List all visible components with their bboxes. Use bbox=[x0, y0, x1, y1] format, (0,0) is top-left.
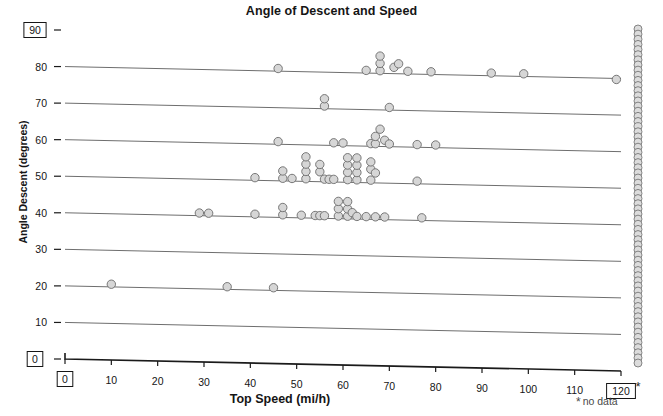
data-point bbox=[274, 137, 282, 145]
data-point bbox=[371, 213, 379, 221]
y-axis-label: Angle Descent (degrees) bbox=[17, 102, 29, 262]
data-point bbox=[302, 153, 310, 161]
data-point bbox=[367, 158, 375, 166]
gridline-y-40 bbox=[65, 213, 621, 225]
data-point bbox=[279, 167, 287, 175]
x-tick-label-0: 0 bbox=[62, 373, 68, 385]
gridline-y-30 bbox=[65, 249, 621, 261]
data-point bbox=[612, 75, 620, 83]
data-point bbox=[223, 283, 231, 291]
y-tick-label-10: 10 bbox=[35, 316, 47, 328]
data-point bbox=[353, 212, 361, 220]
y-tick-label-0: 0 bbox=[32, 353, 38, 365]
data-point bbox=[279, 203, 287, 211]
data-point bbox=[413, 177, 421, 185]
data-point bbox=[107, 280, 115, 288]
data-point bbox=[362, 212, 370, 220]
chart-figure: Angle of Descent and Speed 0102030405060… bbox=[0, 0, 663, 416]
data-point bbox=[385, 140, 393, 148]
x-tick-label-50: 50 bbox=[291, 378, 303, 390]
data-point bbox=[362, 66, 370, 74]
y-tick-label-90: 90 bbox=[29, 24, 41, 36]
data-point bbox=[376, 52, 384, 60]
data-point bbox=[394, 60, 402, 68]
data-point bbox=[297, 211, 305, 219]
gridlines-group bbox=[65, 67, 621, 335]
x-tick-label-70: 70 bbox=[383, 380, 395, 392]
data-point bbox=[343, 197, 351, 205]
data-point bbox=[376, 125, 384, 133]
x-tick-label-60: 60 bbox=[337, 379, 349, 391]
x-tick-label-30: 30 bbox=[198, 376, 210, 388]
data-point bbox=[487, 69, 495, 77]
data-point bbox=[353, 154, 361, 162]
data-point bbox=[320, 95, 328, 103]
data-point bbox=[427, 68, 435, 76]
y-tick-label-80: 80 bbox=[35, 61, 47, 73]
data-point bbox=[334, 197, 342, 205]
y-tick-label-60: 60 bbox=[35, 134, 47, 146]
y-tick-label-30: 30 bbox=[35, 243, 47, 255]
data-point bbox=[381, 213, 389, 221]
no-data-column-group: * bbox=[634, 25, 642, 394]
data-point bbox=[269, 284, 277, 292]
tick-labels-group: 0102030405060708090010203040506070809010… bbox=[24, 23, 635, 399]
asterisk-icon: * bbox=[576, 395, 581, 409]
data-point bbox=[251, 173, 259, 181]
gridline-y-80 bbox=[65, 67, 621, 79]
data-point bbox=[195, 209, 203, 217]
no-data-point bbox=[634, 359, 642, 367]
x-tick-label-10: 10 bbox=[105, 374, 117, 386]
data-point bbox=[288, 174, 296, 182]
data-point bbox=[339, 139, 347, 147]
data-point bbox=[274, 64, 282, 72]
data-point bbox=[343, 154, 351, 162]
data-point bbox=[316, 160, 324, 168]
x-axis-label: Top Speed (mi/h) bbox=[0, 392, 560, 406]
x-tick-label-40: 40 bbox=[244, 377, 256, 389]
gridline-y-50 bbox=[65, 176, 621, 188]
scatter-plot-canvas: 0102030405060708090010203040506070809010… bbox=[0, 0, 663, 416]
legend-no-data-label: no data bbox=[583, 395, 618, 407]
data-point bbox=[520, 70, 528, 78]
data-point bbox=[330, 175, 338, 183]
data-point bbox=[330, 139, 338, 147]
data-point bbox=[204, 209, 212, 217]
data-point bbox=[320, 212, 328, 220]
y-tick-label-40: 40 bbox=[35, 207, 47, 219]
legend-no-data: *no data bbox=[576, 395, 618, 409]
gridline-y-10 bbox=[65, 322, 621, 334]
data-point bbox=[251, 210, 259, 218]
y-tick-label-70: 70 bbox=[35, 97, 47, 109]
data-point bbox=[404, 67, 412, 75]
y-tick-label-50: 50 bbox=[35, 170, 47, 182]
gridline-y-20 bbox=[65, 286, 621, 298]
data-point bbox=[371, 169, 379, 177]
gridline-y-70 bbox=[65, 103, 621, 115]
x-tick-label-20: 20 bbox=[152, 375, 164, 387]
data-point bbox=[418, 214, 426, 222]
data-point bbox=[385, 103, 393, 111]
y-tick-label-20: 20 bbox=[35, 280, 47, 292]
data-point bbox=[413, 140, 421, 148]
data-point bbox=[431, 141, 439, 149]
no-data-axis-marker: * bbox=[635, 379, 640, 394]
